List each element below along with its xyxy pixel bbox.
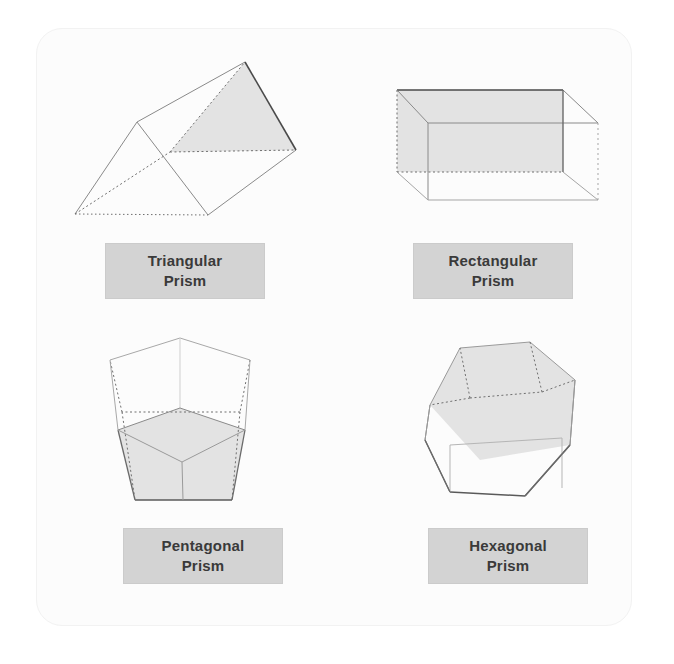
hexagonal-prism-edge-lateral-left [425, 405, 430, 440]
label-line-2: Prism [182, 556, 225, 576]
triangular-prism-hidden-left-base [75, 214, 208, 215]
shape-cell-hexagonal-prism: Hexagonal Prism [330, 320, 674, 664]
rectangular-prism-edge-top-right-slant [563, 90, 598, 123]
triangular-prism-figure [0, 0, 330, 240]
pentagonal-prism-shaded-bottom-face [118, 408, 245, 500]
rectangular-prism-shaded-back-face [397, 90, 563, 172]
label-box-pentagonal-prism: Pentagonal Prism [123, 528, 283, 584]
label-line-1: Triangular [148, 251, 223, 271]
label-line-1: Rectangular [449, 251, 538, 271]
shape-cell-pentagonal-prism: Pentagonal Prism [0, 320, 330, 664]
triangular-prism-edge-left-a [75, 122, 137, 214]
label-box-rectangular-prism: Rectangular Prism [413, 243, 573, 299]
triangular-prism-shaded-face [170, 62, 296, 152]
pentagonal-prism-hidden-edge-top-left [110, 360, 122, 412]
label-line-1: Hexagonal [469, 536, 547, 556]
pentagonal-prism-figure [0, 320, 330, 520]
label-line-2: Prism [487, 556, 530, 576]
hexagonal-prism-edge-bottom-face-right [525, 445, 570, 496]
pentagonal-prism-edge-lateral-back-left [110, 360, 118, 430]
hexagonal-prism-figure [330, 320, 674, 520]
rectangular-prism-figure [330, 0, 674, 240]
diagram-canvas: Triangular Prism Rectang [0, 0, 674, 664]
pentagonal-prism-edge-top-back-left [110, 338, 180, 360]
rectangular-prism-edge-bottom-right-slant [563, 172, 598, 200]
shape-cell-triangular-prism: Triangular Prism [0, 0, 330, 320]
triangular-prism-edge-front-lower [208, 150, 296, 215]
label-box-hexagonal-prism: Hexagonal Prism [428, 528, 588, 584]
shape-cell-rectangular-prism: Rectangular Prism [330, 0, 674, 320]
hexagonal-prism-edge-bottom [450, 492, 525, 496]
label-box-triangular-prism: Triangular Prism [105, 243, 265, 299]
label-line-2: Prism [164, 271, 207, 291]
label-line-2: Prism [472, 271, 515, 291]
label-line-1: Pentagonal [162, 536, 245, 556]
triangular-prism-hidden-diagonal [75, 152, 170, 214]
rectangular-prism-edge-bottom-left-slant [397, 172, 428, 200]
pentagonal-prism-edge-top-back-right [180, 338, 250, 360]
hexagonal-prism-edge-bottom-face-left [425, 440, 450, 492]
